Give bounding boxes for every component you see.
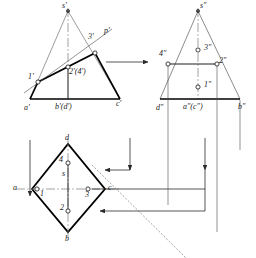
label-top-point-3: 3 (85, 191, 89, 199)
top-point-2 (66, 209, 70, 213)
front-edge-right-heavy (95, 53, 120, 99)
label-top-point-2: 2 (60, 204, 64, 212)
label-top-d: d (65, 134, 69, 142)
label-top-point-1: 1 (40, 190, 44, 198)
side-point-3 (196, 48, 200, 52)
label-side-b: b″ (238, 103, 245, 111)
label-front-point-1: 1' (28, 73, 34, 81)
label-top-s: s (62, 170, 65, 178)
label-top-c: c (108, 184, 112, 192)
side-point-4 (166, 62, 170, 66)
label-front-a: a' (24, 104, 30, 112)
top-point-4 (66, 161, 70, 165)
front-view-group (24, 8, 120, 99)
label-side-apex: s″ (200, 2, 206, 10)
front-edge-left-heavy (30, 82, 38, 99)
label-top-point-4: 4 (59, 156, 63, 164)
label-front-point-2-4: 2'(4') (69, 68, 86, 76)
label-side-point-1: 1″ (204, 81, 211, 89)
label-side-a-c: a″(c″) (183, 103, 203, 111)
label-front-c: c' (116, 100, 121, 108)
label-top-a: a (13, 184, 17, 192)
label-front-p-line: p' (104, 27, 110, 35)
label-top-b: b (65, 235, 69, 243)
top-view-diamond (32, 144, 105, 232)
front-point-3 (93, 51, 97, 55)
label-side-d: d″ (156, 104, 163, 112)
side-point-1 (196, 85, 200, 89)
label-front-apex: s' (62, 2, 67, 10)
side-view-group (160, 8, 240, 112)
front-point-1 (36, 80, 40, 84)
label-side-point-2: 2″ (219, 57, 226, 65)
top-point-1 (35, 187, 39, 191)
projection-drawing (0, 0, 256, 258)
drawing-canvas: s' a' b'(d') c' 1' 2'(4') 3' p' s″ d″ a″… (0, 0, 256, 258)
label-front-b-d: b'(d') (55, 103, 72, 111)
label-front-point-3: 3' (88, 33, 94, 41)
label-side-point-4: 4″ (159, 50, 166, 58)
label-side-point-3: 3″ (204, 44, 211, 52)
mitre-line-45 (92, 165, 186, 258)
